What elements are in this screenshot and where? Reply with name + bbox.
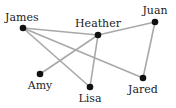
edges-layer [23, 22, 155, 87]
node-amy [37, 71, 44, 78]
node-juan [152, 19, 159, 26]
node-label-juan: Juan [141, 4, 167, 17]
node-jared [140, 75, 147, 82]
node-label-lisa: Lisa [78, 92, 101, 105]
node-lisa [87, 84, 94, 91]
edge-heather-lisa [90, 35, 98, 87]
node-james [20, 25, 27, 32]
node-label-heather: Heather [75, 17, 122, 30]
network-graph: JamesHeatherJuanAmyLisaJared [0, 0, 176, 108]
edge-james-jared [23, 28, 143, 78]
node-label-james: James [4, 11, 39, 24]
node-label-jared: Jared [127, 83, 158, 96]
node-label-amy: Amy [27, 79, 53, 92]
node-heather [95, 32, 102, 39]
edge-juan-jared [143, 22, 155, 78]
